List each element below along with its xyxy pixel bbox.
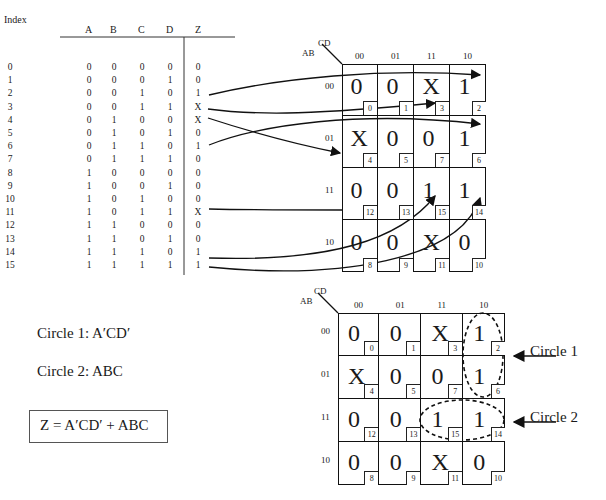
minterm-index: 1 [406, 341, 420, 355]
cell-value: 0 [390, 364, 402, 388]
cell-value: 0 [473, 450, 485, 474]
kmap2-row-label: 00 [321, 326, 330, 336]
kmap2-corner-diagonal [318, 293, 338, 313]
cell-value: X [423, 230, 440, 254]
kmap1-cell: 013 [378, 168, 414, 220]
minterm-index: 11 [448, 471, 462, 485]
cell-value: 0 [387, 74, 399, 98]
kmap1-cell: 05 [378, 116, 414, 168]
cell-value: 1 [431, 407, 443, 431]
kmap2-cell: 013 [379, 399, 421, 442]
minterm-index: 1 [399, 101, 413, 115]
cell-value: 0 [431, 364, 443, 388]
minterm-index: 10 [491, 471, 505, 485]
minterm-index: 3 [448, 341, 462, 355]
minterm-index: 13 [406, 427, 420, 441]
kmap2-cell: 09 [379, 442, 421, 485]
cell-value: 1 [473, 321, 485, 345]
cell-value: 1 [423, 178, 435, 202]
minterm-index: 8 [364, 471, 378, 485]
kmap1-cell: 010 [450, 220, 486, 272]
equation-box: Z = A′CD′ + ABC [29, 410, 168, 443]
kmap1-cell: 09 [378, 220, 414, 272]
cell-value: 0 [387, 126, 399, 150]
kmap1-cell: 07 [414, 116, 450, 168]
cell-value: X [351, 126, 368, 150]
kmap1-cell: 16 [450, 116, 486, 168]
minterm-index: 15 [448, 427, 462, 441]
kmap2-cell: 010 [463, 442, 505, 485]
cell-value: X [348, 364, 365, 388]
cell-value: X [431, 450, 448, 474]
kmap1-col-label: 11 [427, 51, 436, 61]
kmap2-col-label: 00 [354, 300, 363, 310]
kmap2-cell: 07 [421, 356, 463, 399]
kmap1-cell: 012 [342, 168, 378, 220]
kmap1-cell: 114 [450, 168, 486, 220]
kmap2-cell: X3 [421, 313, 463, 356]
kmap1-cell: 01 [378, 64, 414, 116]
cell-value: 1 [473, 407, 485, 431]
minterm-index: 8 [363, 258, 377, 272]
cell-value: X [423, 74, 440, 98]
cell-value: 0 [390, 321, 402, 345]
kmap1-col-label: 00 [355, 51, 364, 61]
minterm-index: 9 [406, 471, 420, 485]
kmap2-cell: 05 [379, 356, 421, 399]
cell-value: 1 [459, 178, 471, 202]
kmap1-cell: 12 [450, 64, 486, 116]
circle1-term: Circle 1: A′CD′ [37, 325, 130, 342]
kmap2-row-label: 01 [321, 369, 330, 379]
cell-value: 0 [390, 450, 402, 474]
kmap1-cell: 115 [414, 168, 450, 220]
minterm-index: 0 [363, 101, 377, 115]
minterm-index: 14 [472, 205, 486, 219]
cell-value: 0 [348, 450, 360, 474]
kmap2-cell: 115 [421, 399, 463, 442]
cell-value: 0 [348, 407, 360, 431]
kmap2-row-label: 11 [321, 412, 330, 422]
cell-value: X [431, 321, 448, 345]
cell-value: 0 [351, 230, 363, 254]
minterm-index: 9 [399, 258, 413, 272]
minterm-index: 12 [364, 427, 378, 441]
kmap2-cell: 12 [463, 313, 505, 356]
arrow-row4-to-cell4 [208, 118, 340, 153]
kmap1-col-label: 01 [391, 51, 400, 61]
cell-value: 0 [351, 74, 363, 98]
cell-value: 0 [351, 178, 363, 202]
kmap1-cell: X11 [414, 220, 450, 272]
minterm-index: 4 [363, 153, 377, 167]
kmap2-cell: 00 [338, 313, 380, 356]
cell-value: 0 [387, 230, 399, 254]
cell-value: 0 [423, 126, 435, 150]
cell-value: 1 [473, 364, 485, 388]
kmap2-cell: 01 [379, 313, 421, 356]
minterm-index: 7 [448, 384, 462, 398]
minterm-index: 7 [435, 153, 449, 167]
minterm-index: 5 [399, 153, 413, 167]
kmap2-row-label: 10 [321, 455, 330, 465]
kmap1-col-label: 10 [463, 51, 472, 61]
kmap2-col-var: CD [314, 286, 327, 296]
kmap2-grid: 00011110000111100001X312X405071601201311… [338, 313, 505, 485]
kmap2-cell: X4 [338, 356, 380, 399]
cell-value: 0 [390, 407, 402, 431]
minterm-index: 13 [399, 205, 413, 219]
kmap2-cell: 16 [463, 356, 505, 399]
kmap1-grid: 00011110000111100001X312X405071601201311… [342, 64, 486, 272]
minterm-index: 2 [472, 101, 486, 115]
kmap1-row-label: 11 [325, 185, 334, 195]
circle2-term: Circle 2: ABC [37, 363, 123, 380]
kmap1-cell: X4 [342, 116, 378, 168]
minterm-index: 5 [406, 384, 420, 398]
minterm-index: 12 [363, 205, 377, 219]
kmap1-cell: X3 [414, 64, 450, 116]
kmap2-cell: X11 [421, 442, 463, 485]
minterm-index: 15 [435, 205, 449, 219]
kmap1-row-label: 00 [325, 81, 334, 91]
cell-value: 1 [459, 126, 471, 150]
kmap2-col-label: 01 [396, 300, 405, 310]
kmap2-cell: 114 [463, 399, 505, 442]
cell-value: 0 [459, 230, 471, 254]
